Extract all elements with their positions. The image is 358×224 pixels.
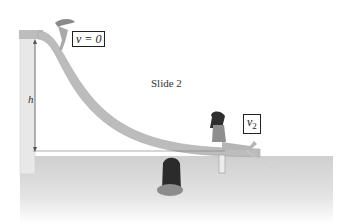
initial-velocity-label: v = 0 [72, 31, 105, 47]
slide-support-post [219, 155, 225, 173]
slide-chute [38, 31, 260, 157]
height-label: h [28, 93, 34, 105]
diagram-graphics [0, 0, 358, 224]
slide-title: Slide 2 [151, 77, 182, 89]
final-velocity-label: v2 [243, 114, 261, 134]
final-velocity-subscript: 2 [252, 121, 257, 131]
initial-velocity-text: v = 0 [76, 32, 101, 46]
water-slide-diagram: v = 0 Slide 2 h v2 [0, 0, 358, 224]
